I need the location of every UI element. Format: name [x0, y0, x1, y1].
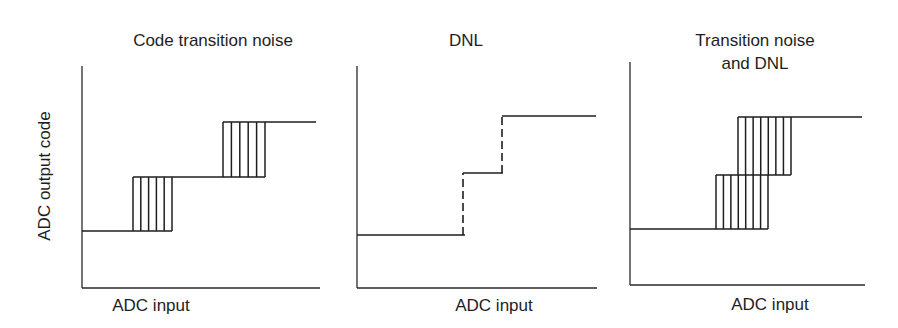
- panel-dnl: DNL ADC input: [357, 31, 597, 315]
- x-axis-label: ADC input: [731, 295, 809, 314]
- panel-title-line-2: and DNL: [721, 54, 788, 73]
- x-axis-label: ADC input: [112, 296, 190, 315]
- adc-error-figure: ADC output code Code transition noise AD…: [0, 0, 898, 328]
- axes: [357, 66, 597, 288]
- transfer-function: [82, 122, 316, 231]
- transfer-function: [357, 116, 596, 235]
- x-axis-label: ADC input: [455, 296, 533, 315]
- axes: [630, 62, 865, 285]
- panel-title: DNL: [449, 31, 483, 50]
- panel-title-line-1: Transition noise: [695, 31, 814, 50]
- panel-title: Code transition noise: [133, 31, 293, 50]
- y-axis-label: ADC output code: [35, 111, 54, 240]
- transfer-function: [630, 117, 862, 229]
- figure-canvas: ADC output code Code transition noise AD…: [0, 0, 898, 328]
- panel-transition-noise-and-dnl: Transition noise and DNL ADC input: [630, 31, 865, 314]
- panel-code-transition-noise: Code transition noise ADC input: [82, 31, 320, 315]
